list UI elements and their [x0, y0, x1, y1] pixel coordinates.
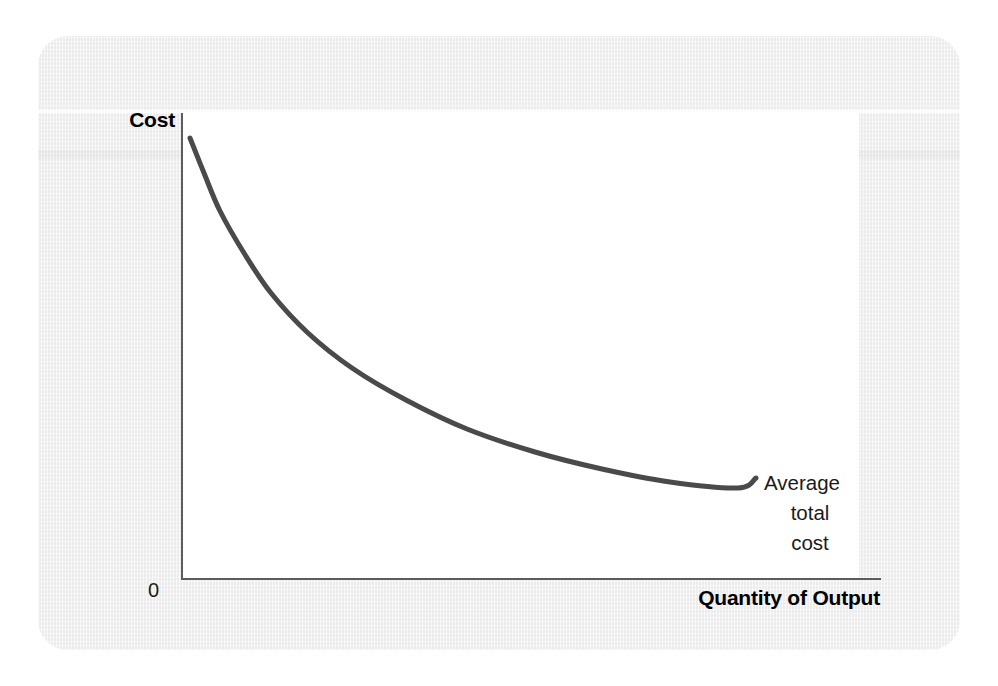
series-label-line-1: Average [764, 468, 856, 498]
x-axis-label: Quantity of Output [600, 586, 880, 610]
figure-root: Cost Quantity of Output 0 Average total … [0, 0, 998, 686]
series-label-line-3: cost [764, 528, 856, 558]
origin-tick-label: 0 [148, 579, 159, 602]
y-axis-line [181, 113, 183, 580]
x-axis-line [181, 578, 881, 580]
y-axis-label: Cost [60, 108, 175, 132]
series-label-line-2: total [764, 498, 856, 528]
plot-area [183, 113, 859, 580]
series-label-average-total-cost: Average total cost [764, 468, 856, 558]
